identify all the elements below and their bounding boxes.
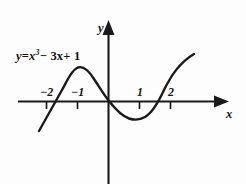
tick-label-neg1: −1 <box>71 86 84 98</box>
equation-equals: = <box>22 49 29 63</box>
equation-annotation: y=x3− 3x+ 1 <box>16 50 80 63</box>
equation-middle-term: − 3x <box>40 49 64 63</box>
tick-label-pos1: 1 <box>137 86 143 98</box>
tick-label-neg2: −2 <box>40 86 53 98</box>
tick-label-pos2: 2 <box>168 86 174 98</box>
y-axis-label: y <box>98 22 104 35</box>
x-axis-label: x <box>226 108 232 121</box>
plot-canvas <box>0 0 246 184</box>
equation-constant-term: + 1 <box>63 49 80 63</box>
x-axis-right-arrow-icon <box>214 96 229 108</box>
cubic-graph-figure: y=x3− 3x+ 1 y x −2 −1 1 2 <box>0 0 246 184</box>
y-axis-up-arrow-icon <box>103 20 115 35</box>
